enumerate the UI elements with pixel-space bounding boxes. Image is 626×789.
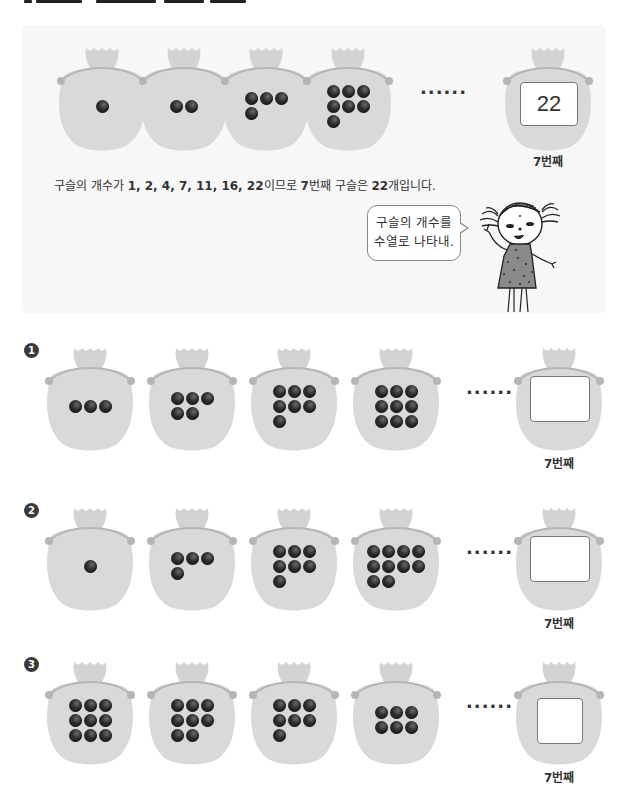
ellipsis: ······ — [466, 388, 513, 398]
bead-icon — [303, 560, 316, 573]
bead-icon — [171, 729, 184, 742]
bead-icon — [375, 706, 388, 719]
bead-icon — [273, 415, 286, 428]
bead-icon — [412, 545, 425, 558]
bead-icon — [375, 385, 388, 398]
answer-input-box[interactable] — [537, 698, 583, 744]
ellipsis: ······ — [466, 548, 513, 558]
bead-icon — [99, 699, 112, 712]
bead-icon — [273, 729, 286, 742]
example-bag-4 — [302, 42, 394, 154]
problem-2-bag-2 — [146, 502, 238, 614]
bag-icon — [44, 502, 136, 614]
example-bag-1 — [56, 42, 148, 154]
bead-icon — [382, 560, 395, 573]
bead-icon — [201, 552, 214, 565]
bead-icon — [275, 92, 288, 105]
bead-row — [171, 552, 214, 565]
sentence-prefix: 구슬의 개수가 — [54, 179, 128, 193]
problem-2-bag-1 — [44, 502, 136, 614]
bead-group — [146, 392, 238, 420]
bead-icon — [273, 545, 286, 558]
bead-icon — [303, 545, 316, 558]
problem-3-bag-3 — [248, 656, 340, 768]
bead-icon — [186, 729, 199, 742]
bead-row — [327, 100, 370, 113]
bead-row — [170, 100, 198, 113]
bead-icon — [327, 115, 340, 128]
bead-row — [375, 721, 418, 734]
bead-group — [248, 699, 340, 742]
bead-icon — [375, 400, 388, 413]
bead-icon — [288, 385, 301, 398]
bead-icon — [186, 407, 199, 420]
bead-row — [171, 392, 214, 405]
sentence-nth: 7 — [300, 179, 308, 193]
bead-row — [375, 706, 418, 719]
bead-row — [273, 385, 316, 398]
bead-icon — [382, 575, 395, 588]
example-answer-box: 22 — [520, 82, 578, 126]
bead-group — [44, 560, 136, 573]
bead-icon — [69, 714, 82, 727]
bag-icon — [44, 342, 136, 454]
bead-icon — [405, 400, 418, 413]
bead-icon — [288, 545, 301, 558]
bead-icon — [171, 714, 184, 727]
bead-group — [138, 100, 230, 113]
bead-icon — [375, 721, 388, 734]
problem-1-bag-3 — [248, 342, 340, 454]
bead-icon — [171, 552, 184, 565]
bead-row — [245, 92, 288, 105]
bead-row — [367, 545, 425, 558]
bead-row — [69, 400, 112, 413]
bead-icon — [412, 560, 425, 573]
bead-group — [302, 85, 394, 128]
bead-icon — [397, 560, 410, 573]
bead-icon — [367, 545, 380, 558]
bead-icon — [273, 385, 286, 398]
ellipsis: ······ — [420, 88, 467, 98]
bead-icon — [405, 706, 418, 719]
bead-icon — [96, 100, 109, 113]
bead-group — [44, 400, 136, 413]
bead-icon — [185, 100, 198, 113]
bead-group — [146, 699, 238, 742]
answer-input-box[interactable] — [530, 536, 590, 582]
bead-icon — [245, 107, 258, 120]
bead-icon — [69, 729, 82, 742]
bead-row — [69, 699, 112, 712]
answer-input-box[interactable] — [530, 376, 590, 422]
bead-row — [273, 400, 316, 413]
bead-icon — [405, 415, 418, 428]
bead-icon — [367, 575, 380, 588]
bead-row — [273, 714, 316, 727]
problem-3-bag-1 — [44, 656, 136, 768]
bead-icon — [303, 699, 316, 712]
bead-icon — [186, 714, 199, 727]
bag-icon — [138, 42, 230, 154]
girl-illustration-icon — [474, 192, 564, 318]
bead-row — [375, 385, 418, 398]
bead-icon — [201, 699, 214, 712]
bead-row — [171, 699, 214, 712]
problem-2-bag-4 — [350, 502, 442, 614]
problem-number-badge: 2 — [24, 503, 39, 518]
bead-group — [350, 385, 442, 428]
bead-icon — [201, 714, 214, 727]
bead-icon — [288, 400, 301, 413]
problem-3-bag-2 — [146, 656, 238, 768]
problem-number-badge: 1 — [24, 343, 39, 358]
bead-row — [84, 560, 97, 573]
bead-row — [273, 560, 316, 573]
bead-row — [171, 567, 214, 580]
bead-row — [69, 729, 112, 742]
bead-icon — [357, 100, 370, 113]
bead-group — [56, 100, 148, 113]
bead-icon — [327, 100, 340, 113]
bead-icon — [99, 400, 112, 413]
bead-row — [273, 729, 316, 742]
bead-group — [44, 699, 136, 742]
bead-icon — [84, 560, 97, 573]
bead-group — [220, 92, 312, 120]
